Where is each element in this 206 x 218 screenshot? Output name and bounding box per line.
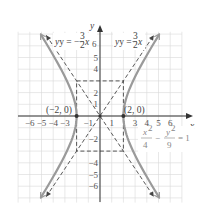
- y-tick-label: 2: [94, 88, 99, 98]
- y-tick-label: −6: [88, 181, 98, 191]
- x-tick-label: −6: [25, 118, 35, 128]
- y-tick-label: −2: [88, 134, 98, 144]
- tick-labels: −6−5−4−3−1134565421−2−4−5−6: [25, 53, 173, 192]
- svg-text:4: 4: [143, 140, 148, 150]
- x-tick-label: −5: [37, 118, 47, 128]
- hyperbola-equation-label: x 2 4 − y 2 9 = 1: [138, 123, 194, 152]
- svg-text:6: 6: [92, 39, 97, 49]
- x-tick-label: 3: [133, 118, 138, 128]
- svg-text:yy =: yy =: [114, 37, 132, 47]
- svg-text:x: x: [84, 37, 90, 47]
- asymptote-pos-label: yy = 3 2 x: [113, 31, 145, 50]
- x-tick-label: −1: [84, 118, 94, 128]
- vertex-right-label: (2, 0): [124, 105, 145, 116]
- svg-text:2: 2: [148, 123, 153, 133]
- arrow-icon: [149, 191, 154, 197]
- vertex-left-label: (−2, 0): [46, 105, 72, 116]
- svg-text:yy = −: yy = −: [54, 37, 79, 47]
- arrow-icon: [46, 191, 51, 197]
- y-tick-label: 5: [94, 53, 99, 63]
- y-tick-label: −5: [88, 170, 98, 180]
- hyperbola-graph: x y −6−5−4−3−1134565421−2−4−5−6 (−2, 0) …: [0, 0, 206, 218]
- arrow-icon: [149, 35, 154, 41]
- x-tick-label: −4: [48, 118, 58, 128]
- x-tick-label: −3: [60, 118, 70, 128]
- vertex-left-point: [75, 114, 79, 118]
- svg-text:2: 2: [171, 123, 176, 133]
- y-tick-label: −4: [88, 158, 98, 168]
- x-tick-label: 1: [109, 118, 114, 128]
- x-axis-arrow-icon: [186, 113, 193, 119]
- origin-point: [98, 114, 101, 117]
- y-axis-label: y: [89, 21, 95, 31]
- asymptote-neg-label: yy = − 3 2 x 6: [53, 31, 97, 50]
- y-tick-label: 1: [94, 99, 99, 109]
- y-axis-arrow-icon: [97, 25, 103, 32]
- svg-text:9: 9: [167, 140, 172, 150]
- svg-text:−: −: [155, 133, 160, 143]
- svg-text:x: x: [137, 37, 143, 47]
- arrow-icon: [46, 35, 51, 41]
- svg-text:x: x: [142, 127, 147, 137]
- svg-text:y: y: [165, 127, 170, 137]
- svg-text:= 1: = 1: [178, 133, 190, 143]
- axes: x y: [18, 21, 195, 202]
- y-tick-label: 4: [94, 64, 99, 74]
